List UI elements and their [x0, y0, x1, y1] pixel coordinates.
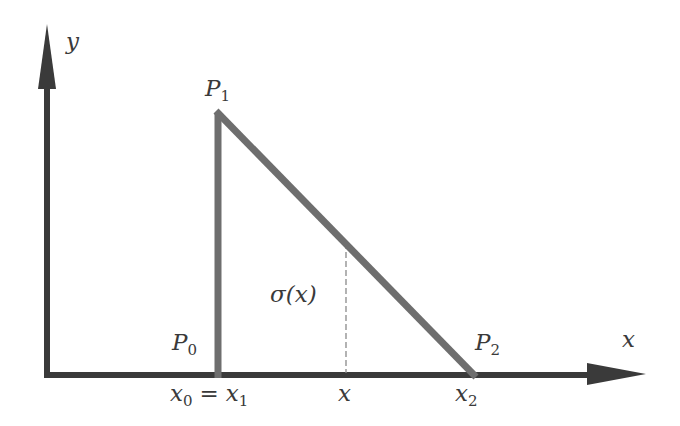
point-label-p1: P1: [205, 77, 230, 104]
tick-label-x: x: [338, 382, 351, 405]
point-label-p2: P2: [475, 331, 500, 358]
p2-name: P: [475, 329, 490, 355]
equals-sign: =: [193, 380, 226, 406]
x0-sub: 0: [183, 392, 193, 410]
sigma-label-text: σ(x): [270, 281, 317, 307]
sigma-label: σ(x): [270, 283, 317, 306]
x-axis-label-text: x: [622, 326, 635, 352]
p0-sub: 0: [187, 341, 197, 359]
y-axis-label: y: [66, 30, 79, 53]
tick-label-x2: x2: [455, 382, 478, 409]
x-tick-text: x: [338, 380, 351, 406]
diagram-canvas: [0, 0, 680, 426]
y-axis-arrowhead-icon: [38, 24, 56, 89]
x1-name: x: [226, 380, 239, 406]
point-label-p0: P0: [172, 331, 197, 358]
x0-name: x: [170, 380, 183, 406]
x2-sub: 2: [468, 392, 478, 410]
p1-sub: 1: [220, 87, 230, 105]
tick-label-x0-eq-x1: x0=x1: [170, 382, 248, 409]
x2-name: x: [455, 380, 468, 406]
x1-sub: 1: [239, 392, 249, 410]
x-axis-label: x: [622, 328, 635, 351]
p0-name: P: [172, 329, 187, 355]
y-axis-label-text: y: [66, 28, 79, 54]
p2-sub: 2: [490, 341, 500, 359]
x-axis-arrowhead-icon: [587, 363, 646, 385]
p1-name: P: [205, 75, 220, 101]
